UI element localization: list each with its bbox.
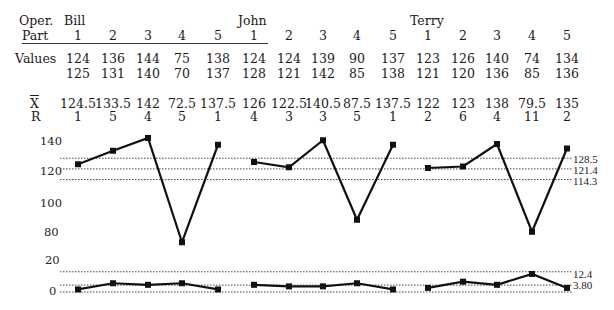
range-y-axis: 20 0 <box>45 253 60 298</box>
y-tick-100: 100 <box>40 196 62 210</box>
xbar-point-marker <box>564 146 570 152</box>
range-point-marker <box>529 271 535 277</box>
xbar-point-marker <box>425 165 431 171</box>
range-point-marker <box>75 286 81 292</box>
xbar-line-bill <box>78 138 218 242</box>
xbar-point-marker <box>529 229 535 235</box>
control-limit-lines <box>60 158 572 292</box>
xbar-point-marker <box>75 161 81 167</box>
range-point-marker <box>179 280 185 286</box>
y-tick-140: 140 <box>40 134 62 148</box>
y-tick-20: 20 <box>45 253 60 267</box>
range-point-marker <box>320 283 326 289</box>
xbar-point-marker <box>354 217 360 223</box>
range-point-marker <box>564 285 570 291</box>
xbar-point-marker <box>286 164 292 170</box>
y-tick-0: 0 <box>49 284 56 298</box>
xbar-point-marker <box>320 137 326 143</box>
range-point-marker <box>425 285 431 291</box>
range-point-marker <box>460 279 466 285</box>
control-limit-labels: 128.5 121.4 114.3 12.4 3.80 <box>573 153 598 291</box>
range-point-marker <box>110 280 116 286</box>
xbar-line-terry <box>428 144 567 232</box>
range-point-marker <box>354 280 360 286</box>
xbar-point-marker <box>145 135 151 141</box>
xbar-point-marker <box>179 239 185 245</box>
lcl-xbar-label: 114.3 <box>573 175 598 187</box>
xbar-point-marker <box>460 164 466 170</box>
xbar-point-marker <box>110 148 116 154</box>
range-point-marker <box>494 282 500 288</box>
xbar-point-marker <box>251 159 257 165</box>
y-tick-80: 80 <box>44 225 59 239</box>
range-point-marker <box>215 286 221 292</box>
control-charts: 140 120 100 80 20 0 128.5 121.4 114.3 12… <box>0 0 614 310</box>
xbar-y-axis: 140 120 100 80 <box>40 134 62 239</box>
xbar-point-marker <box>390 142 396 148</box>
range-point-marker <box>251 282 257 288</box>
y-tick-120: 120 <box>40 164 62 178</box>
xbar-point-marker <box>494 141 500 147</box>
range-point-marker <box>390 286 396 292</box>
range-point-marker <box>286 283 292 289</box>
range-point-marker <box>145 282 151 288</box>
xbar-point-marker <box>215 142 221 148</box>
cl-range-label: 3.80 <box>573 279 593 291</box>
